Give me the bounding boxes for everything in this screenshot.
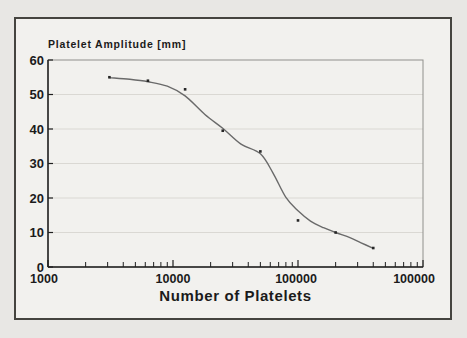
- data-point: [221, 129, 224, 132]
- data-point: [334, 231, 337, 234]
- data-point: [297, 219, 300, 222]
- x-tick-label: 1000: [30, 272, 58, 286]
- y-tick-label: 30: [30, 156, 44, 171]
- y-tick-label: 50: [30, 87, 44, 102]
- data-point: [108, 76, 111, 79]
- x-axis-label: Number of Platelets: [48, 287, 423, 304]
- data-point: [184, 88, 187, 91]
- x-tick-label: 10000: [156, 272, 191, 286]
- y-tick-label: 20: [30, 191, 44, 206]
- y-tick-label: 40: [30, 122, 44, 137]
- data-point: [259, 150, 262, 153]
- data-point: [147, 79, 150, 82]
- y-tick-label: 10: [30, 225, 44, 240]
- x-tick-label: 100000: [393, 272, 435, 286]
- x-tick-label: 100000: [275, 272, 317, 286]
- y-tick-label: 60: [30, 53, 44, 68]
- data-point: [372, 247, 375, 250]
